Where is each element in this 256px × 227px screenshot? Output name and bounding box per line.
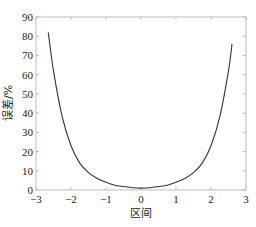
y-tick-label: 10 <box>22 165 34 177</box>
y-axis-label: 误差/% <box>1 85 15 121</box>
y-tick-label: 70 <box>22 49 34 61</box>
x-axis-ticks: −3−2−10123 <box>30 17 249 205</box>
plot-frame <box>36 17 246 190</box>
x-tick-label: 3 <box>243 193 249 205</box>
y-tick-label: 40 <box>22 107 34 119</box>
y-axis-ticks: 0102030405060708090 <box>22 11 246 196</box>
error-vs-interval-chart: 0102030405060708090 −3−2−10123 区间 误差/% <box>0 0 256 227</box>
x-tick-label: 1 <box>173 193 179 205</box>
y-tick-label: 90 <box>22 11 34 23</box>
x-tick-label: 0 <box>138 193 144 205</box>
x-tick-label: −1 <box>100 193 112 205</box>
error-curve <box>48 32 232 188</box>
y-tick-label: 80 <box>22 30 34 42</box>
y-tick-label: 20 <box>22 146 34 158</box>
x-tick-label: −3 <box>30 193 42 205</box>
x-axis-label: 区间 <box>130 207 152 220</box>
y-tick-label: 60 <box>22 69 34 81</box>
y-tick-label: 50 <box>22 88 34 100</box>
x-tick-label: 2 <box>208 193 214 205</box>
x-tick-label: −2 <box>65 193 77 205</box>
y-tick-label: 30 <box>22 126 34 138</box>
